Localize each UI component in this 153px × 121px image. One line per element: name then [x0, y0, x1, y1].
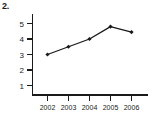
- x-axis-ticks: [48, 95, 132, 101]
- x-tick-label-2006: 2006: [124, 104, 140, 111]
- y-tick-label-1: 1: [20, 82, 25, 91]
- data-point-2006: [129, 30, 133, 34]
- y-tick-label-2: 2: [20, 66, 25, 75]
- x-axis-tick-labels: 2002 2003 2004 2005 2006: [40, 104, 140, 111]
- y-tick-label-5: 5: [20, 20, 25, 29]
- figure-container: 2. 5 4 3 2 1: [0, 0, 153, 121]
- y-tick-label-4: 4: [20, 35, 25, 44]
- data-point-2002: [45, 52, 49, 56]
- x-tick-label-2004: 2004: [82, 104, 98, 111]
- y-tick-label-3: 3: [20, 51, 25, 60]
- line-chart: 5 4 3 2 1 2002 2003 2004 2005 2006: [0, 0, 153, 121]
- x-tick-label-2003: 2003: [61, 104, 77, 111]
- data-point-2003: [66, 45, 70, 49]
- y-axis-ticks: [27, 24, 32, 86]
- y-axis-tick-labels: 5 4 3 2 1: [20, 20, 25, 91]
- x-tick-label-2002: 2002: [40, 104, 56, 111]
- x-tick-label-2005: 2005: [103, 104, 119, 111]
